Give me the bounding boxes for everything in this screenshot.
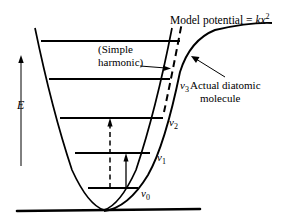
fundamental-transition-arrow — [124, 153, 129, 188]
level-label-v2-subscript: 2 — [174, 122, 178, 131]
level-label-v0: v0 — [141, 187, 150, 202]
actual-molecule-leader — [191, 56, 225, 77]
title-prefix: Model potential = — [170, 14, 255, 26]
title-exponent: 2 — [266, 12, 270, 21]
level-label-v3: v3 — [180, 79, 189, 94]
energy-axis-label: E — [17, 99, 24, 113]
actual-line2: molecule — [200, 92, 261, 105]
diagram-canvas — [0, 0, 306, 224]
level-label-v1: v1 — [157, 151, 166, 166]
level-label-v0-subscript: 0 — [146, 193, 150, 202]
level-label-v2: v2 — [169, 116, 178, 131]
simple-harmonic-leader — [140, 66, 171, 71]
vibrational-energy-level-diagram: Model potential = kx2 (Simple harmonic) … — [0, 0, 306, 224]
simple-harmonic-line1: (Simple — [98, 43, 133, 55]
level-label-v3-subscript: 3 — [185, 85, 189, 94]
actual-line1: Actual diatomic — [190, 79, 261, 91]
figure-title: Model potential = kx2 — [170, 12, 270, 27]
actual-molecule-annotation: Actual diatomic molecule — [190, 79, 261, 104]
simple-harmonic-line2: harmonic) — [98, 56, 143, 68]
simple-harmonic-annotation: (Simple harmonic) — [98, 43, 143, 68]
level-label-v1-subscript: 1 — [162, 157, 166, 166]
